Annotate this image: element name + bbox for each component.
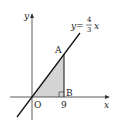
y-axis-label: y xyxy=(23,11,30,21)
x-axis-arrow-icon xyxy=(105,95,110,99)
equation-prefix: y= xyxy=(70,21,84,31)
line-y-equals-4-thirds-x xyxy=(17,33,80,117)
equation-numerator: 4 xyxy=(87,16,92,24)
x-axis-label: x xyxy=(104,100,109,110)
equation-variable: x xyxy=(94,21,99,31)
y-axis-arrow-icon xyxy=(30,13,34,18)
point-a-label: A xyxy=(54,45,62,55)
tick-label-9: 9 xyxy=(61,100,67,110)
equation-denominator: 3 xyxy=(87,26,91,34)
point-b-label: B xyxy=(66,88,73,98)
coordinate-diagram: y x O 9 A B y= 4 3 x xyxy=(0,0,117,129)
origin-label: O xyxy=(34,100,41,110)
